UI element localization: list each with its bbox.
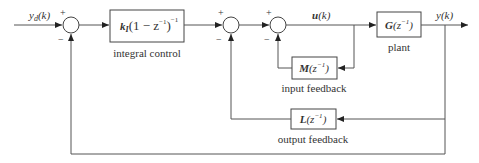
sum1-plus-sign: + xyxy=(60,7,66,18)
input-feedback-label: input feedback xyxy=(281,82,347,94)
sum2-minus-sign: − xyxy=(216,34,222,45)
sum3-minus-sign: − xyxy=(264,34,270,45)
integral-control-label: integral control xyxy=(113,47,181,59)
sum3-plus-sign: + xyxy=(266,7,272,18)
output-label: y(k) xyxy=(435,9,453,22)
control-input-label: u(k) xyxy=(312,9,331,22)
reference-label: yd(k) xyxy=(28,9,50,23)
output-feedback-expr: L(z−1) xyxy=(299,112,327,126)
summing-junction-3 xyxy=(270,17,286,33)
input-feedback-path-out xyxy=(278,34,292,68)
output-feedback-path-in xyxy=(337,25,445,119)
summing-junction-2 xyxy=(223,17,239,33)
integral-control-expr: kI(1 − z−1)−1 xyxy=(120,16,179,34)
plant-label: plant xyxy=(388,41,410,53)
plant-expr: G(z−1) xyxy=(385,18,413,32)
sum2-plus-sign: + xyxy=(218,7,224,18)
output-feedback-label: output feedback xyxy=(278,133,349,145)
summing-junction-1 xyxy=(63,17,79,33)
output-feedback-path-out xyxy=(231,34,291,119)
input-feedback-expr: M(z−1) xyxy=(298,61,329,75)
sum1-minus-sign: − xyxy=(58,34,64,45)
input-feedback-path-in xyxy=(338,25,354,68)
control-block-diagram: yd(k) + − kI(1 − z−1)−1 integral control… xyxy=(0,0,479,163)
